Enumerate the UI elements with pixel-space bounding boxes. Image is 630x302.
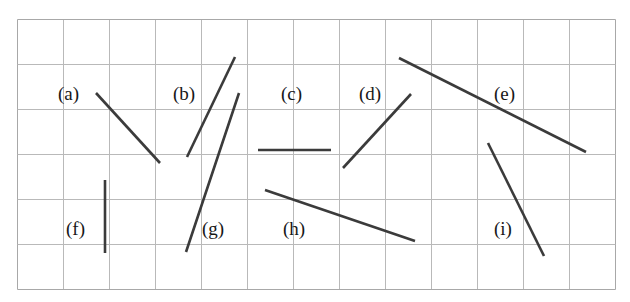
segment-label-g: (g)	[202, 219, 224, 238]
figure-canvas	[0, 0, 630, 302]
segment-label-e: (e)	[494, 84, 515, 103]
segment-label-i: (i)	[494, 219, 512, 238]
segment-label-f: (f)	[66, 219, 85, 238]
segment-label-h: (h)	[283, 219, 305, 238]
segment-label-d: (d)	[359, 84, 381, 103]
line-orientation-figure: (a)(b)(c)(d)(e)(f)(g)(h)(i)	[0, 0, 630, 302]
segment-label-c: (c)	[281, 84, 302, 103]
segment-label-a: (a)	[58, 84, 79, 103]
segment-label-b: (b)	[173, 84, 195, 103]
